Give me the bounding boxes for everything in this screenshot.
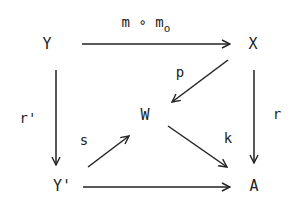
label-m-compose-m-text: m ∘ m (122, 14, 164, 30)
node-W: W (140, 108, 149, 123)
arrow-W-to-A (168, 126, 227, 167)
commutative-diagram: Y X W Y' A m ∘ mo p r' s k r (0, 0, 299, 209)
arrow-Yp-to-W (88, 136, 129, 167)
label-k: k (224, 131, 232, 145)
node-X: X (248, 37, 257, 52)
node-A: A (249, 179, 258, 194)
label-subscript-o: o (164, 22, 171, 35)
node-Y: Y (42, 37, 51, 52)
label-r-prime: r' (20, 111, 37, 125)
label-p: p (176, 65, 184, 79)
label-s: s (80, 133, 88, 147)
label-r: r (273, 107, 281, 121)
label-m-compose-m0: m ∘ mo (122, 15, 171, 29)
node-Y-prime: Y' (53, 179, 71, 194)
